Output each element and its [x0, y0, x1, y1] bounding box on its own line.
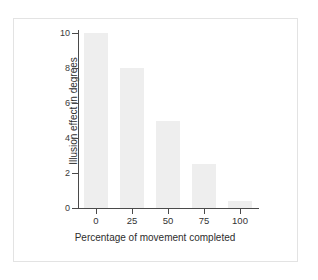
y-axis-tick-label: 6	[54, 99, 70, 108]
bar	[156, 121, 180, 209]
x-axis-tick-mark	[168, 209, 169, 214]
x-axis-tick-label-wrapper: 50	[148, 216, 188, 228]
y-axis-tick-label-wrapper: 2	[54, 168, 70, 178]
x-axis-tick-label-wrapper: 0	[76, 216, 116, 228]
x-axis-tick-label: 0	[93, 216, 98, 226]
y-axis-tick-label: 0	[54, 204, 70, 213]
plot-area	[78, 28, 258, 208]
x-axis-title: Percentage of movement completed	[40, 232, 270, 244]
x-axis-tick-mark	[132, 209, 133, 214]
x-axis-tick-label: 50	[163, 216, 174, 226]
figure-root: Illusion effect in degrees 0246810 02550…	[0, 0, 318, 280]
x-axis-tick-mark	[96, 209, 97, 214]
x-axis-tick-label: 25	[127, 216, 138, 226]
bar	[84, 33, 108, 208]
y-axis-tick-label-wrapper: 0	[54, 203, 70, 213]
y-axis-tick-label: 2	[54, 169, 70, 178]
x-axis-tick-mark	[204, 209, 205, 214]
y-axis-tick-label: 8	[54, 64, 70, 73]
y-axis-tick-label-wrapper: 6	[54, 98, 70, 108]
bar	[192, 164, 216, 208]
bar	[228, 201, 252, 208]
x-axis-tick-label-wrapper: 100	[220, 216, 260, 228]
y-axis-tick-mark	[72, 208, 78, 209]
x-axis-tick-label-wrapper: 75	[184, 216, 224, 228]
y-axis-tick-label-wrapper: 8	[54, 63, 70, 73]
x-axis-tick-mark	[240, 209, 241, 214]
x-axis-tick-label-wrapper: 25	[112, 216, 152, 228]
y-axis-tick-label: 4	[54, 134, 70, 143]
x-axis-tick-label: 100	[232, 216, 248, 226]
x-axis-tick-label: 75	[199, 216, 210, 226]
bar	[120, 68, 144, 208]
y-axis-tick-label: 10	[54, 29, 70, 38]
y-axis-tick-label-wrapper: 10	[54, 28, 70, 38]
y-axis-tick-label-wrapper: 4	[54, 133, 70, 143]
